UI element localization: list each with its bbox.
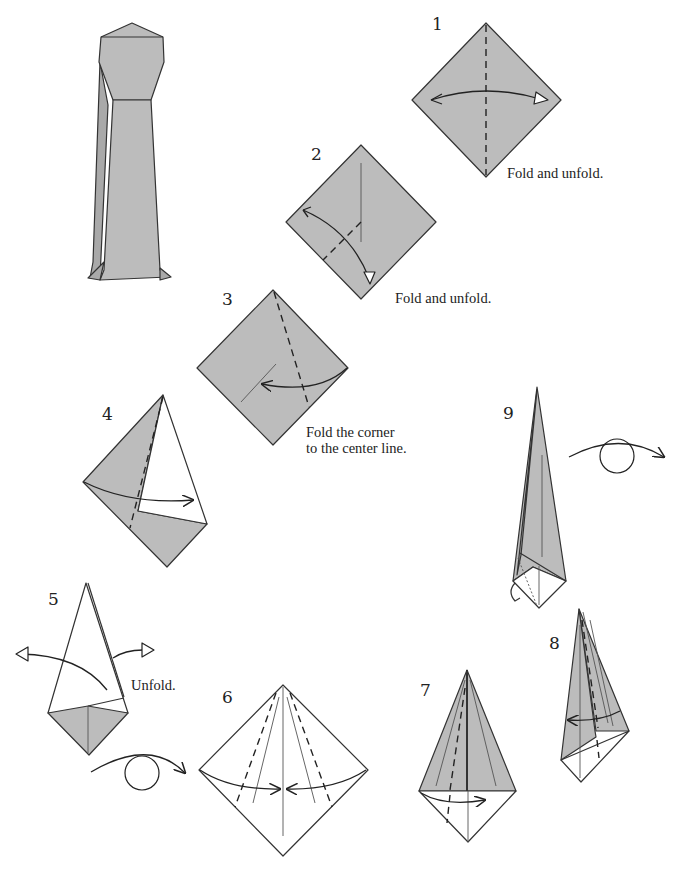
step-number: 2 [311, 144, 322, 164]
paper-shape [48, 583, 128, 713]
step-2: 2 Fold and unfold. [286, 144, 491, 306]
step-number: 4 [102, 404, 113, 424]
step-number: 7 [420, 680, 431, 700]
step-number: 8 [549, 633, 560, 653]
step-1: 1 Fold and unfold. [412, 14, 603, 181]
step-number: 6 [222, 687, 233, 707]
paper-square [199, 685, 368, 856]
step-3: 3 Fold the corner to the center line. [197, 289, 407, 456]
finished-model-tower [88, 23, 171, 280]
unfold-arrow-right-icon [113, 650, 143, 658]
step-number: 1 [432, 14, 443, 34]
step-number: 5 [48, 589, 59, 609]
step-caption-line-1: Fold the corner [306, 424, 395, 440]
turn-over-icon [569, 439, 664, 473]
step-caption-line-2: to the center line. [306, 440, 407, 456]
step-number: 9 [503, 403, 514, 423]
step-caption: Fold and unfold. [507, 165, 603, 181]
turn-over-icon [91, 755, 185, 790]
step-caption: Unfold. [131, 677, 176, 693]
step-4: 4 [83, 395, 207, 567]
step-8: 8 [549, 609, 629, 782]
step-7: 7 [419, 670, 516, 842]
step-caption: Fold and unfold. [395, 290, 491, 306]
step-9: 9 [503, 387, 664, 608]
step-6: 6 [199, 685, 368, 856]
step-number: 3 [222, 289, 233, 309]
step-5: 5 Unfold. [16, 583, 185, 790]
origami-diagram: 1 Fold and unfold. 2 Fold and unfold. 3 … [0, 0, 681, 882]
